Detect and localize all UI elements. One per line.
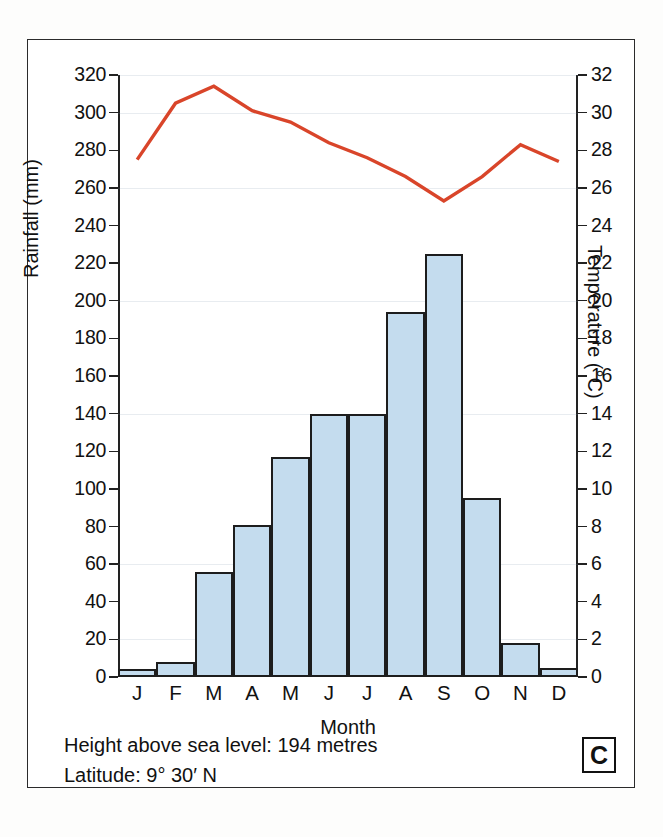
y-axis-right-tick-label: 26 bbox=[591, 178, 612, 198]
y-axis-right-tick bbox=[578, 225, 587, 226]
y-axis-left-tick bbox=[109, 526, 118, 527]
y-axis-right-tick bbox=[578, 488, 587, 489]
y-axis-right-tick-label: 8 bbox=[591, 517, 602, 537]
y-axis-left-tick-label: 120 bbox=[74, 441, 106, 461]
y-axis-left-tick-label: 240 bbox=[74, 216, 106, 236]
y-axis-right-tick-label: 2 bbox=[591, 629, 602, 649]
x-axis-tick-label: N bbox=[513, 683, 528, 704]
y-axis-right-tick bbox=[578, 413, 587, 414]
x-axis-tick-label: J bbox=[362, 683, 372, 704]
x-axis-tick-labels: JFMAMJJASOND bbox=[118, 683, 578, 711]
y-axis-right-tick-label: 28 bbox=[591, 140, 612, 160]
y-axis-left-tick-label: 40 bbox=[85, 592, 106, 612]
y-axis-left-tick bbox=[109, 112, 118, 113]
y-axis-left-tick-label: 280 bbox=[74, 140, 106, 160]
y-axis-right-title: Temperature (°C) bbox=[583, 245, 606, 399]
y-axis-right-tick bbox=[578, 150, 587, 151]
y-axis-right-tick-label: 4 bbox=[591, 592, 602, 612]
y-axis-right-tick-label: 32 bbox=[591, 65, 612, 85]
y-axis-right-tick bbox=[578, 451, 587, 452]
y-axis-left-tick-label: 20 bbox=[85, 629, 106, 649]
y-axis-right-tick bbox=[578, 74, 587, 75]
y-axis-left-tick-label: 160 bbox=[74, 366, 106, 386]
y-axis-left-tick bbox=[109, 338, 118, 339]
figure-footnotes: Height above sea level: 194 metres Latit… bbox=[64, 730, 378, 790]
y-axis-right-tick bbox=[578, 112, 587, 113]
y-axis-right-tick bbox=[578, 676, 587, 677]
y-axis-right-tick-label: 0 bbox=[591, 667, 602, 687]
y-axis-left-tick bbox=[109, 262, 118, 263]
y-axis-left-tick bbox=[109, 676, 118, 677]
y-axis-right-tick-label: 30 bbox=[591, 103, 612, 123]
y-axis-right-tick-label: 12 bbox=[591, 441, 612, 461]
y-axis-left-tick bbox=[109, 563, 118, 564]
footnote-latitude: Latitude: 9° 30′ N bbox=[64, 760, 378, 790]
temperature-polyline bbox=[137, 86, 559, 201]
y-axis-left-tick bbox=[109, 74, 118, 75]
x-axis-tick-label: A bbox=[245, 683, 259, 704]
y-axis-left-tick-label: 200 bbox=[74, 291, 106, 311]
x-axis-tick-label: J bbox=[324, 683, 334, 704]
x-axis-tick-label: F bbox=[169, 683, 182, 704]
y-axis-right-tick bbox=[578, 563, 587, 564]
y-axis-left-tick-label: 0 bbox=[95, 667, 106, 687]
y-axis-left-tick bbox=[109, 639, 118, 640]
y-axis-left-title: Rainfall (mm) bbox=[20, 159, 43, 278]
y-axis-left-tick bbox=[109, 488, 118, 489]
y-axis-left-tick bbox=[109, 187, 118, 188]
y-axis-right-tick-label: 10 bbox=[591, 479, 612, 499]
y-axis-left-tick-label: 260 bbox=[74, 178, 106, 198]
y-axis-left-tick-label: 80 bbox=[85, 517, 106, 537]
y-axis-left-tick bbox=[109, 413, 118, 414]
y-axis-left-tick bbox=[109, 601, 118, 602]
y-axis-right-tick bbox=[578, 187, 587, 188]
y-axis-left-tick-label: 140 bbox=[74, 404, 106, 424]
y-axis-right-tick bbox=[578, 601, 587, 602]
panel-letter-badge: C bbox=[582, 737, 616, 773]
y-axis-right-tick bbox=[578, 639, 587, 640]
x-axis-tick-label: A bbox=[399, 683, 413, 704]
y-axis-left-tick bbox=[109, 451, 118, 452]
x-axis-tick-label: M bbox=[282, 683, 299, 704]
y-axis-left-tick-label: 300 bbox=[74, 103, 106, 123]
y-axis-right-tick-label: 14 bbox=[591, 404, 612, 424]
y-axis-left-tick bbox=[109, 300, 118, 301]
y-axis-left-tick bbox=[109, 225, 118, 226]
y-axis-left-tick-label: 220 bbox=[74, 253, 106, 273]
x-axis-tick-label: J bbox=[132, 683, 142, 704]
y-axis-right-tick bbox=[578, 526, 587, 527]
footnote-height-above-sea-level: Height above sea level: 194 metres bbox=[64, 730, 378, 760]
y-axis-left-tick-label: 320 bbox=[74, 65, 106, 85]
y-axis-right-tick-label: 6 bbox=[591, 554, 602, 574]
y-axis-left-tick-label: 180 bbox=[74, 328, 106, 348]
x-axis-tick-label: S bbox=[437, 683, 451, 704]
x-axis-tick-label: D bbox=[551, 683, 566, 704]
y-axis-left-tick bbox=[109, 375, 118, 376]
temperature-line bbox=[118, 75, 578, 677]
y-axis-right-tick-label: 24 bbox=[591, 216, 612, 236]
x-axis-tick-label: O bbox=[474, 683, 490, 704]
x-axis-tick-label: M bbox=[205, 683, 222, 704]
y-axis-left-tick bbox=[109, 150, 118, 151]
y-axis-left-tick-label: 60 bbox=[85, 554, 106, 574]
figure-frame: 0204060801001201401601802002202402602803… bbox=[27, 39, 635, 788]
page-background: 0204060801001201401601802002202402602803… bbox=[0, 0, 663, 837]
y-axis-left-tick-label: 100 bbox=[74, 479, 106, 499]
plot-area: 0204060801001201401601802002202402602803… bbox=[118, 75, 578, 677]
